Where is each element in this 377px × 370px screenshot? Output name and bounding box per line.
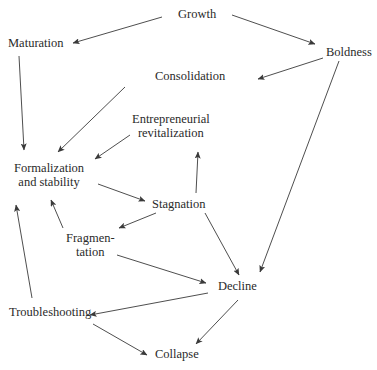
edge-consolidation-to-formalization xyxy=(58,87,125,152)
node-boldness: Boldness xyxy=(326,46,372,60)
node-collapse: Collapse xyxy=(155,348,199,362)
edge-decline-to-collapse xyxy=(196,300,238,344)
node-fragmentation: Fragmen- tation xyxy=(66,232,115,259)
node-label: Boldness xyxy=(326,46,372,60)
edge-stagnation-to-decline xyxy=(205,213,239,275)
edge-decline-to-troubleshooting xyxy=(90,293,208,315)
node-consolidation: Consolidation xyxy=(155,70,225,84)
edge-maturation-to-formalization xyxy=(19,56,24,150)
node-label: Consolidation xyxy=(155,70,225,84)
lifecycle-diagram: Growth Maturation Boldness Consolidation… xyxy=(0,0,377,370)
edge-fragmentation-to-decline xyxy=(117,255,206,283)
node-label: Troubleshooting xyxy=(9,306,91,320)
edge-entrepreneurial-to-formalization xyxy=(95,135,130,159)
node-label-line-1: Fragmen- xyxy=(66,232,115,246)
node-label-line-2: and stability xyxy=(14,176,84,190)
edge-growth-to-boldness xyxy=(232,15,315,44)
node-stagnation: Stagnation xyxy=(152,198,205,212)
edge-formalization-to-stagnation xyxy=(98,184,145,201)
node-maturation: Maturation xyxy=(8,37,64,51)
node-label-line-1: Entrepreneurial xyxy=(132,113,210,127)
edge-stagnation-to-entrepreneurial xyxy=(196,152,198,193)
node-label-line-2: tation xyxy=(66,246,115,260)
edge-boldness-to-decline xyxy=(260,61,339,272)
node-troubleshooting: Troubleshooting xyxy=(9,306,91,320)
node-label-line-1: Formalization xyxy=(14,162,84,176)
node-label: Decline xyxy=(218,280,257,294)
edge-troubleshooting-to-formalization xyxy=(16,205,32,298)
node-label: Stagnation xyxy=(152,198,205,212)
node-label-line-2: revitalization xyxy=(132,127,210,141)
node-decline: Decline xyxy=(218,280,257,294)
node-entrepreneurial-revitalization: Entrepreneurial revitalization xyxy=(132,113,210,140)
node-label: Maturation xyxy=(8,37,64,51)
edge-fragmentation-to-formalization xyxy=(51,200,63,228)
edge-stagnation-to-fragmentation xyxy=(119,213,156,228)
node-formalization-and-stability: Formalization and stability xyxy=(14,162,84,189)
edge-growth-to-maturation xyxy=(73,17,162,43)
node-label: Collapse xyxy=(155,348,199,362)
edge-boldness-to-consolidation xyxy=(258,58,323,79)
edge-troubleshooting-to-collapse xyxy=(93,324,147,355)
node-label: Growth xyxy=(178,8,216,22)
node-growth: Growth xyxy=(178,8,216,22)
